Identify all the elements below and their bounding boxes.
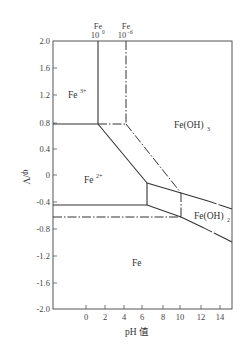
y-axis-label: φ/V: [21, 170, 31, 185]
y-axis-ticks: [53, 68, 57, 283]
svg-text:-1.2: -1.2: [37, 251, 50, 261]
svg-text:10: 10: [91, 30, 100, 40]
svg-text:4: 4: [122, 312, 127, 322]
svg-text:2.0: 2.0: [39, 36, 50, 46]
svg-text:0.8: 0.8: [39, 118, 50, 128]
svg-text:Fe: Fe: [84, 175, 94, 185]
svg-text:0.4: 0.4: [39, 144, 50, 154]
x-axis-label: pH 值: [125, 326, 149, 337]
svg-text:Fe(OH): Fe(OH): [174, 120, 204, 131]
svg-text:2: 2: [227, 217, 230, 223]
svg-text:6: 6: [140, 312, 144, 322]
svg-text:-0.4: -0.4: [37, 197, 51, 207]
top-annotation-dashdot: Fe 10 −6: [118, 21, 133, 40]
svg-text:10: 10: [176, 312, 185, 322]
region-feoh2: Fe(OH) 2: [194, 211, 230, 223]
svg-text:1.2: 1.2: [39, 90, 50, 100]
svg-text:Fe(OH): Fe(OH): [194, 211, 224, 222]
svg-text:14: 14: [216, 312, 225, 322]
region-fe3plus: Fe 3+: [68, 88, 87, 100]
svg-text:0: 0: [84, 312, 88, 322]
top-annotation-solid: Fe 10 0: [91, 21, 105, 40]
svg-text:2+: 2+: [96, 173, 103, 179]
x-axis-tick-labels: 0 2 4 6 8 10 12 14: [84, 312, 225, 322]
pourbaix-diagram: 2.0 1.6 1.2 0.8 0.4 0 -0.4 -0.8 -1.2 -1.…: [0, 0, 246, 350]
svg-text:-1.6: -1.6: [37, 278, 50, 288]
svg-text:Fe: Fe: [68, 90, 78, 100]
region-fe: Fe: [132, 258, 142, 268]
svg-text:−6: −6: [127, 29, 133, 35]
dashdot-boundaries: [53, 41, 220, 233]
plot-frame: [53, 41, 232, 309]
y-axis-tick-labels: 2.0 1.6 1.2 0.8 0.4 0 -0.4 -0.8 -1.2 -1.…: [37, 36, 51, 314]
svg-text:3: 3: [207, 126, 210, 132]
svg-text:8: 8: [161, 312, 165, 322]
svg-text:Fe: Fe: [132, 258, 142, 268]
svg-text:2: 2: [103, 312, 107, 322]
svg-text:0: 0: [102, 29, 105, 35]
svg-text:3+: 3+: [80, 88, 87, 94]
svg-text:0: 0: [46, 170, 50, 180]
svg-text:12: 12: [197, 312, 206, 322]
svg-text:-2.0: -2.0: [37, 304, 50, 314]
svg-text:-0.8: -0.8: [37, 224, 50, 234]
x-axis-ticks: [86, 305, 220, 309]
svg-text:10: 10: [118, 30, 127, 40]
svg-text:1.6: 1.6: [39, 63, 50, 73]
region-fe2plus: Fe 2+: [84, 173, 103, 185]
region-feoh3: Fe(OH) 3: [174, 120, 210, 132]
